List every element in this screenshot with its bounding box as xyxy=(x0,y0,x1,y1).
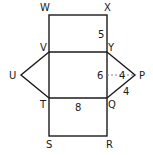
vertex-label-T: T xyxy=(39,99,47,110)
vertex-label-S: S xyxy=(46,139,52,150)
vertex-label-X: X xyxy=(104,2,111,13)
measure-YQ: 6 xyxy=(97,70,103,81)
measure-QP: 4 xyxy=(123,86,129,97)
vertex-label-Y: Y xyxy=(107,42,115,53)
vertex-label-Q: Q xyxy=(108,99,116,110)
vertex-label-R: R xyxy=(106,139,113,150)
prism-net-diagram: W X V Y U P T Q S R 5 6 4 4 8 xyxy=(0,0,153,155)
vertex-label-U: U xyxy=(9,70,16,81)
measure-height: 4 xyxy=(119,70,125,81)
triangle-left-VUT xyxy=(21,52,49,98)
vertex-label-P: P xyxy=(139,70,145,81)
measure-TQ: 8 xyxy=(75,102,81,113)
vertex-label-W: W xyxy=(40,2,50,13)
vertex-label-V: V xyxy=(40,42,47,53)
measure-XY: 5 xyxy=(98,29,104,40)
